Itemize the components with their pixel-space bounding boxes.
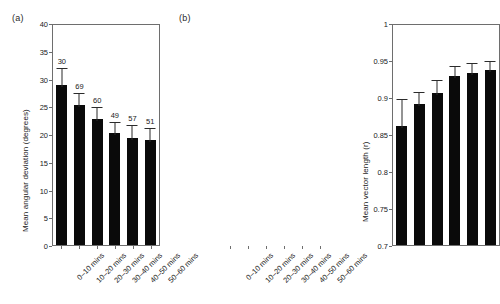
panel-b: (b) Mean vector length (r) 0.70.750.80.8… [171,0,342,304]
panel-b-ytick-label: 0.75 [362,205,388,214]
bar-group: 51 [141,25,159,245]
panel-a-ytick-label: 15 [26,158,48,167]
panel-b-ytick-mark [389,24,392,25]
panel-b-tag: (b) [179,13,191,23]
bar [467,73,478,245]
error-bar [419,92,420,106]
bar [485,70,496,245]
xtick-mark [97,246,98,249]
panel-b-ytick-label: 0.8 [362,168,388,177]
bar-count-label: 30 [58,57,66,66]
error-bar [97,107,98,121]
panel-a-ytick-mark [49,218,52,219]
panel-b-ytick-mark [389,61,392,62]
error-bar-cap [449,66,460,67]
panel-b-ytick-mark [389,172,392,173]
bar-group [428,25,446,245]
error-bar [132,125,133,140]
error-bar-cap [109,122,120,123]
xtick-mark [151,246,152,249]
panel-a-ytick-label: 5 [26,214,48,223]
bar-group [481,25,499,245]
panel-a-ytick-mark [49,24,52,25]
error-bar [79,93,80,106]
xtick-mark [79,246,80,249]
bar-group [446,25,464,245]
error-bar-cap [432,80,443,81]
error-bar-cap [414,92,425,93]
panel-a-plot-area: 306960495751 [52,24,160,246]
error-bar [150,128,151,141]
error-bar [454,66,455,78]
panel-a-ytick-mark [49,163,52,164]
error-bar-cap [92,107,103,108]
bar-group: 30 [53,25,71,245]
panel-a: (a) Mean angular deviation (degrees) 306… [0,0,171,304]
xtick-mark [320,246,321,249]
xtick-mark [133,246,134,249]
panel-a-bars: 306960495751 [53,25,159,245]
error-bar-cap [56,68,67,69]
panel-a-ytick-label: 35 [26,47,48,56]
bar-count-label: 51 [146,117,154,126]
bar-group: 49 [106,25,124,245]
error-bar-cap [127,125,138,126]
bar [396,126,407,245]
bar [92,119,103,245]
panel-a-ytick-mark [49,107,52,108]
panel-b-ytick-mark [389,246,392,247]
error-bar-cap [396,99,407,100]
xtick-mark [230,246,231,249]
panel-b-ytick-label: 0.9 [362,94,388,103]
panel-a-ytick-mark [49,52,52,53]
panel-b-ytick-label: 1 [362,20,388,29]
xtick-mark [302,246,303,249]
panel-a-ytick-label: 25 [26,103,48,112]
panel-a-ytick-label: 20 [26,131,48,140]
bar [74,105,85,245]
bar [145,140,156,245]
panel-b-ytick-mark [389,209,392,210]
bar [127,138,138,245]
bar [432,93,443,245]
panel-a-ytick-label: 0 [26,242,48,251]
panel-b-ytick-mark [389,135,392,136]
panel-a-ytick-mark [49,191,52,192]
bar-group: 57 [124,25,142,245]
panel-b-plot-area [392,24,500,246]
panel-a-tag: (a) [12,13,24,23]
panel-b-ytick-label: 0.85 [362,131,388,140]
bar-group: 60 [88,25,106,245]
bar-count-label: 57 [128,114,136,123]
error-bar [437,80,438,95]
bar-group [464,25,482,245]
bar-group [411,25,429,245]
error-bar [61,68,62,87]
bar-count-label: 69 [75,82,83,91]
panel-b-ytick-label: 0.7 [362,242,388,251]
xtick-mark [61,246,62,249]
xtick-mark [115,246,116,249]
bar-count-label: 49 [111,111,119,120]
panel-b-ytick-mark [389,98,392,99]
panel-a-ytick-mark [49,80,52,81]
error-bar-cap [74,93,85,94]
error-bar [401,99,402,128]
panel-a-ytick-mark [49,246,52,247]
panel-b-bars [393,25,499,245]
xtick-mark [248,246,249,249]
error-bar-cap [485,61,496,62]
bar [449,76,460,245]
panel-b-ytick-label: 0.95 [362,57,388,66]
bar [56,85,67,245]
bar-group: 69 [71,25,89,245]
bar [414,104,425,245]
panel-a-ytick-label: 30 [26,75,48,84]
error-bar-cap [467,63,478,64]
panel-a-ytick-mark [49,135,52,136]
error-bar [490,61,491,73]
xtick-mark [266,246,267,249]
error-bar [472,63,473,75]
panel-a-ytick-label: 40 [26,20,48,29]
